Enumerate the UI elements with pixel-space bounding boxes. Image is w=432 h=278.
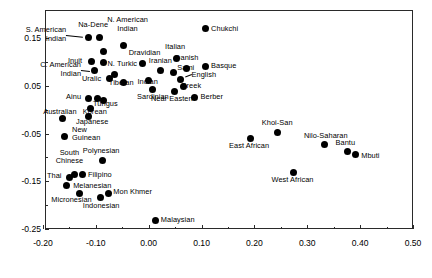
data-point-label: Khoi-San — [262, 119, 293, 128]
data-point-label: English — [192, 71, 217, 80]
data-point-label: Indonesian — [83, 202, 120, 211]
data-point-label: Malaysian — [161, 216, 195, 225]
data-point-label: Mbuti — [361, 152, 379, 161]
data-point-label: Near Eastern — [151, 95, 195, 104]
data-point — [61, 133, 68, 140]
scatter-plot-figure: -0.20-0.100.000.100.200.300.400.500.150.… — [0, 0, 432, 278]
data-point-label: Italian — [165, 43, 185, 52]
data-point — [344, 148, 351, 155]
x-axis-tick — [149, 225, 150, 229]
x-axis-minor-tick — [175, 227, 176, 230]
data-point-label: South Chinese — [56, 149, 83, 166]
y-axis-tick-label: 0.05 — [17, 81, 41, 91]
data-point-label: Chukchi — [211, 25, 238, 34]
data-point-label: C. American Indian — [40, 61, 81, 78]
y-axis-tick-label: -0.25 — [17, 224, 41, 234]
data-point-label: Melanesian — [73, 182, 111, 191]
data-point-label: Filipino — [88, 171, 112, 180]
x-axis-tick — [202, 225, 203, 229]
data-point — [152, 217, 159, 224]
x-axis-tick-label: 0.40 — [352, 238, 369, 248]
y-axis-tick — [45, 181, 49, 182]
x-axis-tick-label: 0.50 — [405, 238, 422, 248]
data-point-label: Mon Khmer — [113, 188, 152, 197]
data-point-label: East African — [229, 142, 269, 151]
x-axis-tick-label: -0.10 — [86, 238, 106, 248]
x-axis-tick — [413, 225, 414, 229]
data-point — [88, 58, 95, 65]
data-point-label: Thai — [47, 172, 62, 181]
y-axis-tick — [45, 229, 49, 230]
y-axis-minor-tick — [45, 157, 48, 158]
data-point-label: Tibetan — [109, 79, 134, 88]
x-axis-tick — [360, 225, 361, 229]
x-axis-minor-tick — [387, 227, 388, 230]
data-point-label: Indian — [137, 78, 157, 87]
data-point-label: Korean — [83, 108, 107, 117]
data-point — [120, 42, 127, 49]
data-point-label: Iranian — [149, 57, 172, 66]
data-point — [274, 129, 281, 136]
y-axis-tick-label: -0.05 — [17, 129, 41, 139]
x-axis-minor-tick — [228, 227, 229, 230]
data-point-label: S. American Indian — [26, 26, 66, 43]
data-point-label: Uralic — [82, 75, 101, 84]
x-axis-minor-tick — [69, 227, 70, 230]
data-point-label: New Guinean — [72, 126, 100, 143]
y-axis-tick — [45, 86, 49, 87]
data-point — [99, 157, 106, 164]
x-axis-tick-label: 0.10 — [193, 238, 210, 248]
x-axis-tick-label: 0.00 — [140, 238, 157, 248]
data-point — [96, 34, 103, 41]
x-axis-minor-tick — [122, 227, 123, 230]
data-point-label: Danish — [175, 54, 198, 63]
x-axis-tick — [254, 225, 255, 229]
x-axis-tick-label: -0.20 — [33, 238, 53, 248]
data-point-label: Polynesian — [83, 147, 120, 156]
label-leader-line — [81, 70, 90, 72]
data-point-label: Australian — [43, 108, 76, 117]
data-point-label: Greek — [181, 82, 201, 91]
y-axis-tick — [45, 134, 49, 135]
y-axis-tick-label: -0.15 — [17, 176, 41, 186]
data-point-label: Na-Dene — [78, 21, 108, 30]
data-point-label: N. American Indian — [107, 16, 148, 33]
data-point — [79, 171, 86, 178]
x-axis-minor-tick — [334, 227, 335, 230]
data-point — [105, 190, 112, 197]
data-point — [170, 69, 177, 76]
data-point-label: Bantu — [336, 139, 356, 148]
x-axis-tick — [96, 225, 97, 229]
x-axis-tick-label: 0.30 — [299, 238, 316, 248]
x-axis-tick — [307, 225, 308, 229]
x-axis-minor-tick — [281, 227, 282, 230]
data-point-label: Berber — [201, 93, 223, 102]
x-axis-tick — [43, 225, 44, 229]
y-axis-minor-tick — [45, 205, 48, 206]
data-point-label: Ainu — [66, 93, 81, 102]
x-axis-tick-label: 0.20 — [246, 238, 263, 248]
data-point-label: N. Turkic — [107, 60, 137, 69]
data-point — [85, 34, 92, 41]
data-point-label: West African — [272, 176, 314, 185]
